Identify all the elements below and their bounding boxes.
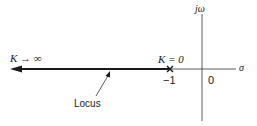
k-infinity-text: K → ∞ xyxy=(10,52,42,64)
k-zero-text: K = 0 xyxy=(158,53,184,65)
k-zero-label: K = 0 xyxy=(158,54,184,65)
origin-label: 0 xyxy=(208,75,214,86)
locus-label: Locus xyxy=(74,99,101,109)
leader-arrowhead-icon xyxy=(106,71,111,78)
locus-arrowhead-icon xyxy=(10,66,22,73)
sigma-axis-label: σ xyxy=(239,63,244,73)
jomega-axis-label: jω xyxy=(195,4,205,14)
pole-position-label: −1 xyxy=(163,75,176,86)
locus-leader-line xyxy=(96,74,109,96)
k-infinity-label: K → ∞ xyxy=(10,53,42,64)
